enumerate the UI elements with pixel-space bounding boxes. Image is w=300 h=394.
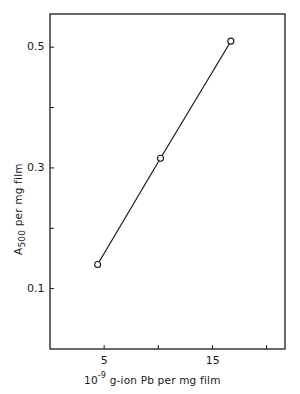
data-point-marker: [228, 38, 234, 44]
plot-frame: [50, 14, 285, 349]
data-point-marker: [95, 261, 101, 267]
y-label-main: A: [12, 248, 24, 255]
x-label-exponent: -9: [98, 371, 106, 380]
x-label-base: 10: [84, 374, 98, 386]
data-line: [98, 41, 231, 264]
y-axis-label: A500 per mg film: [12, 163, 24, 255]
y-label-subscript: 500: [17, 230, 27, 248]
x-tick-label: 5: [101, 355, 108, 366]
x-axis-label: 10-9 g-ion Pb per mg film: [84, 372, 221, 386]
chart-plot: [0, 0, 300, 394]
y-tick-label: 0.1: [27, 283, 45, 294]
x-label-rest: g-ion Pb per mg film: [106, 374, 220, 386]
y-label-rest: per mg film: [12, 163, 24, 230]
y-tick-label: 0.3: [27, 162, 45, 173]
y-tick-label: 0.5: [27, 41, 45, 52]
data-point-marker: [157, 155, 163, 161]
x-tick-label: 15: [206, 355, 220, 366]
